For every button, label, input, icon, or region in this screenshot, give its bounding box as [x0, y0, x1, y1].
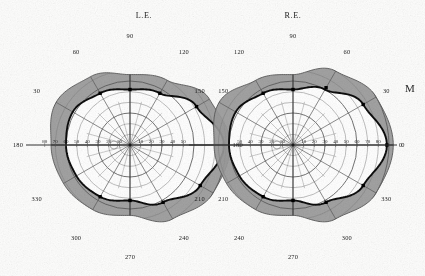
- perimetry-figure: L.E. R.E. M 3060901201501802102402703003…: [0, 0, 425, 276]
- scan-grain-overlay: [0, 0, 425, 276]
- perimetry-svg: L.E. R.E. M 3060901201501802102402703003…: [0, 0, 425, 276]
